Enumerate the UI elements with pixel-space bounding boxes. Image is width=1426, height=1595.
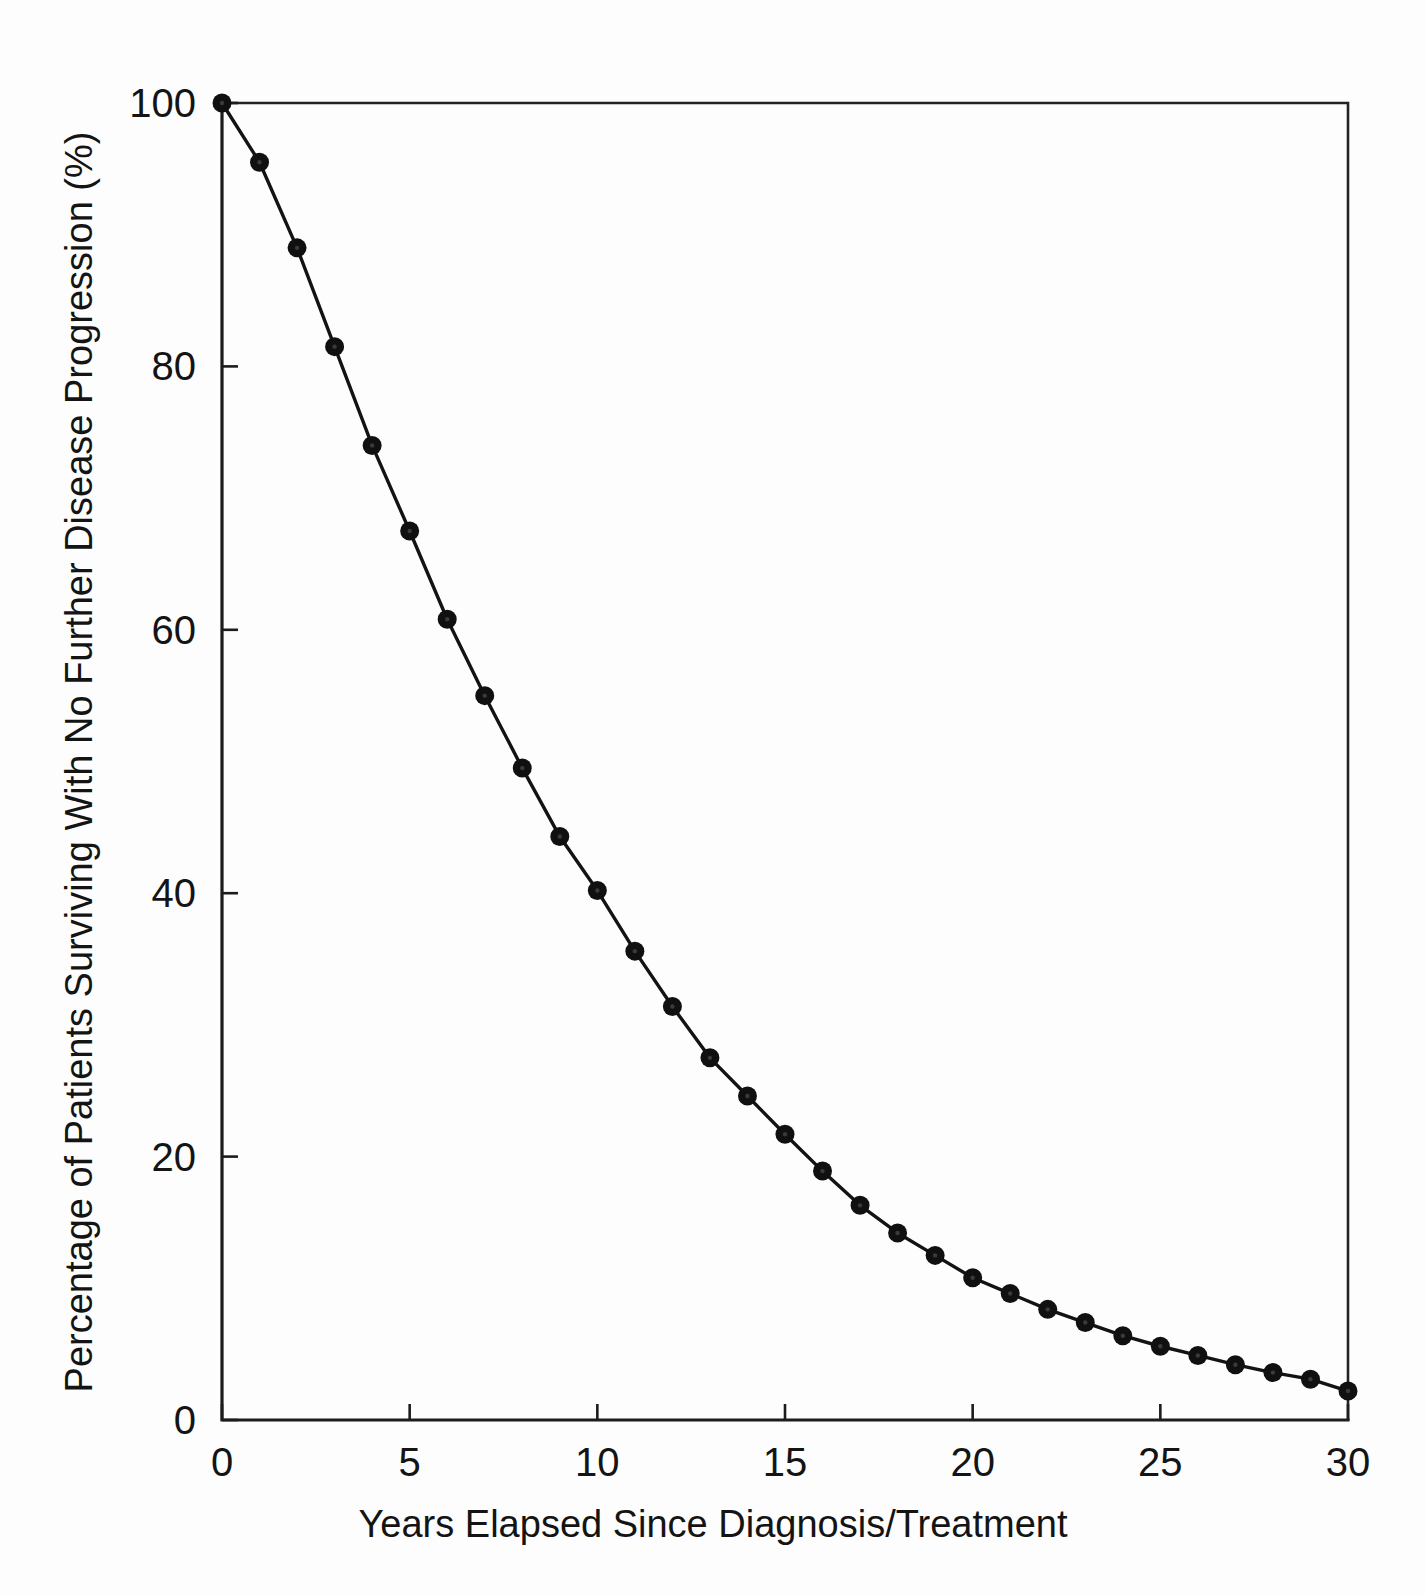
- x-tick-label-15: 15: [763, 1440, 808, 1484]
- plot-frame-top-right: [222, 103, 1348, 1420]
- y-tick-label-40: 40: [152, 871, 197, 915]
- x-tick-label-5: 5: [399, 1440, 421, 1484]
- y-axis-tick-labels: 020406080100: [129, 81, 196, 1442]
- x-tick-label-0: 0: [211, 1440, 233, 1484]
- data-point-center-5: [407, 529, 411, 533]
- data-point-center-6: [445, 617, 449, 621]
- y-tick-label-60: 60: [152, 608, 197, 652]
- data-point-center-2: [295, 246, 299, 250]
- data-point-center-21: [1008, 1291, 1012, 1295]
- data-point-center-28: [1271, 1370, 1275, 1374]
- data-point-center-23: [1083, 1320, 1087, 1324]
- data-series: [222, 103, 1348, 1391]
- y-axis-ticks: [222, 103, 238, 1420]
- y-tick-label-100: 100: [129, 81, 196, 125]
- data-point-center-9: [558, 834, 562, 838]
- chart-figure: 051015202530 020406080100 Years Elapsed …: [0, 0, 1426, 1595]
- data-point-center-7: [483, 693, 487, 697]
- data-point-center-25: [1158, 1344, 1162, 1348]
- x-axis-title: Years Elapsed Since Diagnosis/Treatment: [358, 1503, 1067, 1545]
- data-point-center-4: [370, 443, 374, 447]
- data-point-center-17: [858, 1203, 862, 1207]
- data-point-center-0: [220, 101, 224, 105]
- y-tick-label-0: 0: [174, 1398, 196, 1442]
- data-point-center-12: [670, 1004, 674, 1008]
- y-axis-title: Percentage of Patients Surviving With No…: [58, 132, 100, 1393]
- x-axis-tick-labels: 051015202530: [211, 1440, 1370, 1484]
- data-point-center-30: [1346, 1389, 1350, 1393]
- data-point-center-13: [708, 1056, 712, 1060]
- data-point-center-26: [1196, 1353, 1200, 1357]
- data-point-center-1: [257, 160, 261, 164]
- data-point-center-27: [1233, 1362, 1237, 1366]
- chart-canvas: 051015202530 020406080100 Years Elapsed …: [0, 0, 1426, 1595]
- data-point-center-8: [520, 766, 524, 770]
- plot-axes-left-bottom: [222, 103, 1348, 1420]
- data-point-center-3: [332, 344, 336, 348]
- data-point-center-20: [970, 1276, 974, 1280]
- data-point-center-11: [633, 949, 637, 953]
- series-line-progression-free-survival: [222, 103, 1348, 1391]
- plot-frame: [222, 103, 1348, 1420]
- x-tick-label-25: 25: [1138, 1440, 1183, 1484]
- data-point-center-10: [595, 888, 599, 892]
- x-axis-ticks: [222, 1404, 1348, 1420]
- y-tick-label-80: 80: [152, 344, 197, 388]
- y-tick-label-20: 20: [152, 1135, 197, 1179]
- x-tick-label-10: 10: [575, 1440, 620, 1484]
- data-point-center-14: [745, 1094, 749, 1098]
- data-point-markers: [213, 94, 1358, 1401]
- data-point-center-22: [1046, 1307, 1050, 1311]
- x-tick-label-30: 30: [1326, 1440, 1371, 1484]
- x-tick-label-20: 20: [950, 1440, 995, 1484]
- data-point-center-19: [933, 1253, 937, 1257]
- data-point-center-18: [895, 1231, 899, 1235]
- data-point-center-16: [820, 1169, 824, 1173]
- data-point-center-24: [1121, 1334, 1125, 1338]
- data-point-center-15: [783, 1132, 787, 1136]
- data-point-center-29: [1308, 1377, 1312, 1381]
